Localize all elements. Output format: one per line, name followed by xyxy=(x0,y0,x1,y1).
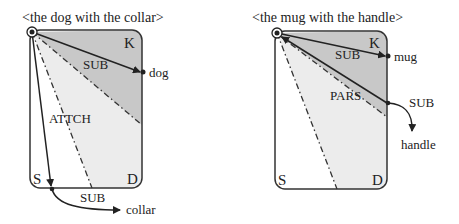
label-collar: collar xyxy=(126,202,156,217)
node-dog xyxy=(141,70,146,75)
label-sub-right: SUB xyxy=(335,47,361,62)
diagram-left-title: <the dog with the collar> xyxy=(22,10,164,25)
diagram-canvas: <the dog with the collar> SUB dog ATTCH … xyxy=(0,0,459,224)
label-sub-collar: SUB xyxy=(80,190,106,205)
label-pars: PARS xyxy=(330,88,361,103)
diagram-right-title: <the mug with the handle> xyxy=(252,10,403,25)
corner-s-left: S xyxy=(33,171,41,187)
diagram-left: <the dog with the collar> SUB dog ATTCH … xyxy=(22,10,169,217)
label-handle: handle xyxy=(401,137,436,152)
label-dog: dog xyxy=(149,65,169,80)
corner-k-right: K xyxy=(369,35,380,51)
origin-dot-left xyxy=(30,30,35,35)
origin-dot-right xyxy=(275,31,280,36)
diagram-right: <the mug with the handle> SUB mug PARS S… xyxy=(252,10,436,189)
corner-k-left: K xyxy=(124,35,135,51)
node-mug xyxy=(386,54,391,59)
label-sub-left: SUB xyxy=(83,57,109,72)
corner-s-right: S xyxy=(278,172,286,188)
label-mug: mug xyxy=(394,49,418,64)
corner-d-left: D xyxy=(127,171,138,187)
label-attch: ATTCH xyxy=(49,111,91,126)
label-sub-handle: SUB xyxy=(409,95,435,110)
corner-d-right: D xyxy=(372,172,383,188)
